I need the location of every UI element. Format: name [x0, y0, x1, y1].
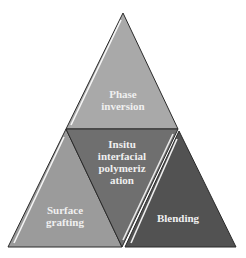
label-phase-line2: inversion: [101, 100, 144, 112]
label-surface-line2: grafting: [46, 216, 84, 228]
label-surface-line1: Surface: [47, 204, 83, 216]
label-phase-line1: Phase: [109, 88, 137, 100]
label-insitu-line3: polymeriz: [98, 162, 145, 174]
label-insitu-line4: ation: [110, 174, 134, 186]
label-insitu-line1: Insitu: [108, 138, 136, 150]
triangle-diagram: Phase inversion Surface grafting Insitu …: [0, 0, 246, 258]
label-insitu-line2: interfacial: [98, 150, 146, 162]
label-blending: Blending: [157, 212, 200, 224]
segment-phase-inversion: Phase inversion: [66, 13, 178, 129]
